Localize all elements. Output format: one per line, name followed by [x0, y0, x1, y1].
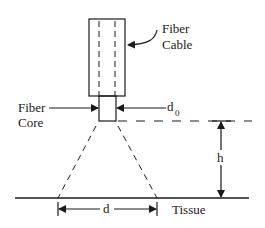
fiber-core-callout: Fiber Core: [18, 100, 98, 130]
d-label: d: [103, 201, 110, 216]
fiber-core-label-line1: Fiber: [18, 100, 46, 115]
tissue-label: Tissue: [172, 202, 206, 217]
fiber-cable: [89, 19, 125, 96]
fiber-optic-diagram: Fiber Cable Fiber Core d 0 h Tissue d: [0, 0, 265, 228]
h-dimension: h: [212, 121, 231, 197]
d0-subscript: 0: [175, 108, 180, 118]
fiber-cable-label-line1: Fiber: [162, 21, 190, 36]
fiber-cable-callout: Fiber Cable: [128, 21, 193, 52]
fiber-core: [99, 96, 116, 121]
d0-label: d: [167, 99, 174, 114]
h-label: h: [217, 150, 224, 165]
light-cone: [58, 126, 157, 198]
d-dimension: d: [58, 201, 157, 216]
fiber-cable-label-line2: Cable: [162, 37, 193, 52]
d0-dimension: d 0: [117, 99, 180, 118]
fiber-core-label-line2: Core: [18, 115, 44, 130]
